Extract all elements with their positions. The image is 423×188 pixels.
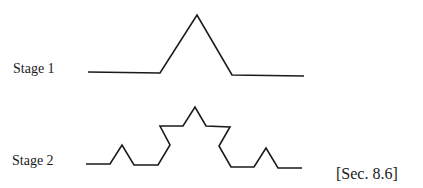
- stage-1-curve: [88, 15, 304, 76]
- stage-2-curve: [86, 107, 302, 168]
- koch-curve-diagram: [0, 0, 423, 188]
